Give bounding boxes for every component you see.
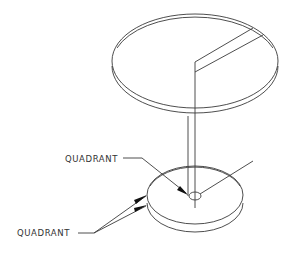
callout-lower-quadrant: QUADRANT [17,195,147,238]
leader-line-upper [123,158,186,193]
technical-drawing: QUADRANT QUADRANT [0,0,292,256]
upper-disk-slot-line-2 [195,35,263,72]
upper-disk-slot-line-1 [195,28,253,66]
arrowhead-lower-b [134,205,147,212]
arrowhead-lower-a [134,195,147,204]
radial-line [200,161,253,194]
quadrant-label-lower: QUADRANT [17,228,70,238]
upper-disk-inner-top-arc [117,17,273,48]
lower-disk [147,161,253,232]
vertical-axis [188,66,195,208]
callout-upper-quadrant: QUADRANT [65,154,188,195]
quadrant-label-upper: QUADRANT [65,154,118,164]
